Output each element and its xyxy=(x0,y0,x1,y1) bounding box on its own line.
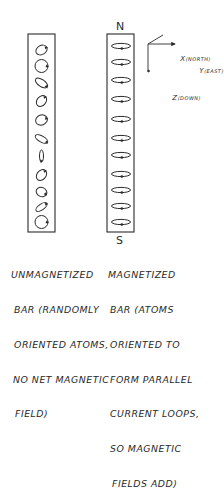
caption-line: UNMAGNETIZED xyxy=(11,269,109,281)
atom-loop-icon xyxy=(34,113,50,127)
caption-line: BAR (ATOMS xyxy=(108,304,199,316)
caption-line: ORIENTED ATOMS, xyxy=(11,339,109,351)
current-loop-icon xyxy=(112,187,131,194)
current-loop-icon xyxy=(112,96,131,103)
z-axis-label: Z(DOWN) xyxy=(150,66,201,123)
current-loop-icon xyxy=(112,77,131,84)
magnetized-caption: MAGNETIZED BAR (ATOMS ORIENTED TO FORM P… xyxy=(108,246,199,492)
caption-line: CURRENT LOOPS, xyxy=(108,408,199,420)
atom-loop-icon xyxy=(35,216,49,229)
current-loop-icon xyxy=(112,171,131,178)
caption-line: ORIENTED TO xyxy=(108,339,199,351)
unmagnetized-caption: UNMAGNETIZED BAR (RANDOMLY ORIENTED ATOM… xyxy=(11,246,109,443)
atom-loop-icon xyxy=(34,93,49,109)
caption-line: FIELD) xyxy=(11,408,109,420)
aligned-current-loops xyxy=(112,43,131,226)
atom-loop-icon xyxy=(35,60,49,73)
current-loop-icon xyxy=(112,116,131,123)
random-atom-loops xyxy=(34,43,50,229)
atom-loop-icon xyxy=(34,43,50,57)
y-axis-note: (EAST) xyxy=(204,68,224,74)
atom-loop-icon xyxy=(34,167,49,183)
caption-line: NO NET MAGNETIC xyxy=(11,374,109,386)
magnetized-bar xyxy=(107,34,134,232)
atom-loop-icon xyxy=(34,133,50,146)
unmagnetized-bar xyxy=(28,34,55,232)
atom-loop-icon xyxy=(40,150,44,163)
caption-line: BAR (RANDOMLY xyxy=(11,304,109,316)
caption-line: SO MAGNETIC xyxy=(108,443,199,455)
caption-line: MAGNETIZED xyxy=(108,269,199,281)
north-pole-label: N xyxy=(116,20,125,33)
z-axis-note: (DOWN) xyxy=(178,95,201,101)
caption-line: FIELDS ADD) xyxy=(108,478,199,490)
current-loop-icon xyxy=(112,152,131,159)
current-loop-icon xyxy=(112,135,131,142)
current-loop-icon xyxy=(112,203,131,210)
atom-loop-icon xyxy=(35,186,50,199)
current-loop-icon xyxy=(112,219,131,226)
atom-loop-icon xyxy=(34,200,49,213)
atom-loop-icon xyxy=(34,76,50,90)
current-loop-icon xyxy=(112,43,131,50)
current-loop-icon xyxy=(112,59,131,66)
caption-line: FORM PARALLEL xyxy=(108,374,199,386)
